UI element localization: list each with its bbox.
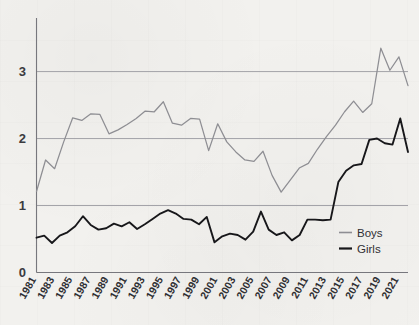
x-tick-label-1989: 1989 [89, 274, 111, 300]
x-tick-label-1993: 1993 [125, 274, 147, 300]
x-tick-label-2007: 2007 [252, 274, 274, 300]
series-line-girls [37, 118, 409, 243]
legend-label-girls: Girls [357, 243, 381, 255]
y-tick-label-1: 1 [19, 198, 26, 213]
x-tick-label-2011: 2011 [288, 274, 310, 300]
x-axis-tick-labels: 1981198319851987198919911993199519971999… [16, 274, 401, 300]
x-tick-label-1997: 1997 [161, 274, 183, 300]
x-tick-label-1991: 1991 [107, 274, 129, 300]
x-tick-label-1983: 1983 [34, 274, 56, 300]
chart-legend: Boys Girls [339, 227, 383, 255]
x-tick-label-2005: 2005 [234, 274, 256, 300]
gridlines-group [37, 72, 409, 206]
x-tick-label-2015: 2015 [324, 274, 346, 300]
x-tick-label-2019: 2019 [360, 274, 382, 300]
y-tick-label-2: 2 [19, 131, 26, 146]
legend-label-boys: Boys [357, 227, 383, 239]
series-line-boys [37, 48, 409, 192]
x-tick-label-2021: 2021 [379, 274, 401, 300]
x-tick-label-1987: 1987 [71, 274, 93, 300]
x-tick-label-2001: 2001 [197, 274, 219, 300]
x-tick-label-2009: 2009 [270, 274, 292, 300]
x-tick-label-1999: 1999 [179, 274, 201, 300]
x-tick-label-2013: 2013 [306, 274, 328, 300]
x-tick-label-1985: 1985 [52, 274, 74, 300]
chart-canvas: 0123 19811983198519871989199119931995199… [0, 0, 419, 325]
y-tick-label-3: 3 [19, 64, 26, 79]
y-axis-tick-labels: 0123 [19, 64, 26, 280]
x-tick-label-2017: 2017 [342, 274, 364, 300]
line-chart: 0123 19811983198519871989199119931995199… [0, 0, 419, 325]
x-tick-label-2003: 2003 [216, 274, 238, 300]
x-tick-label-1995: 1995 [143, 274, 165, 300]
